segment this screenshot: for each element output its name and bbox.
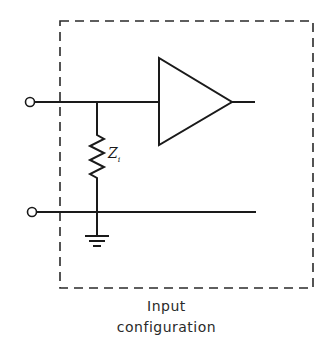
impedance-label: Zi	[108, 145, 120, 164]
input-terminal-top	[26, 98, 35, 107]
input-terminal-bottom	[28, 208, 37, 217]
impedance-resistor-icon	[90, 102, 104, 212]
caption-line-2: configuration	[0, 319, 333, 335]
dashed-enclosure	[60, 21, 313, 288]
ground-icon	[85, 212, 109, 246]
amplifier-triangle-icon	[159, 58, 232, 145]
caption-line-1: Input	[0, 298, 333, 314]
impedance-symbol: Z	[108, 145, 118, 161]
impedance-subscript: i	[118, 155, 121, 164]
